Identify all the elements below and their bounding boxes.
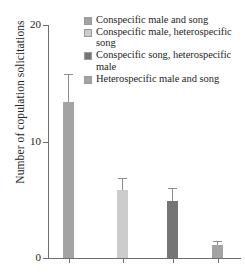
legend-label: Conspecific song, heterospecific male <box>96 49 244 72</box>
legend-label: Heterospecific male and song <box>96 73 219 85</box>
y-tick-mark <box>43 25 48 26</box>
error-bar-cap <box>213 241 222 242</box>
bar <box>63 102 74 258</box>
y-axis-line <box>48 25 49 258</box>
x-tick-mark <box>218 259 219 263</box>
legend-label: Conspecific male, heterospecific song <box>96 26 244 49</box>
x-tick-mark <box>173 259 174 263</box>
error-bar-cap <box>168 188 177 189</box>
bar <box>212 245 223 258</box>
legend-swatch-icon <box>84 52 92 60</box>
bar <box>117 190 128 258</box>
legend-swatch-icon <box>84 76 92 84</box>
y-tick-mark <box>43 142 48 143</box>
legend-swatch-icon <box>84 29 92 37</box>
error-bar-cap <box>118 178 127 179</box>
error-bar-cap <box>64 74 73 75</box>
legend-entry: Conspecific male, heterospecific song <box>84 26 244 49</box>
error-bar-stem <box>122 178 123 191</box>
legend-entry: Heterospecific male and song <box>84 73 244 85</box>
y-tick-mark <box>43 258 48 259</box>
x-axis-line <box>48 258 241 259</box>
y-tick-label: 20 <box>1 19 41 30</box>
legend-swatch-icon <box>84 17 92 25</box>
x-tick-mark <box>69 259 70 263</box>
error-bar-stem <box>68 74 69 102</box>
chart-legend: Conspecific male and songConspecific mal… <box>84 14 244 84</box>
x-tick-mark <box>123 259 124 263</box>
legend-entry: Conspecific song, heterospecific male <box>84 49 244 72</box>
legend-label: Conspecific male and song <box>96 14 208 26</box>
legend-entry: Conspecific male and song <box>84 14 244 26</box>
bar-chart-figure: Number of copulation solicitations 20100… <box>0 0 245 275</box>
error-bar-stem <box>172 188 173 201</box>
y-tick-label: 0 <box>1 252 41 263</box>
y-tick-label: 10 <box>1 136 41 147</box>
bar <box>167 201 178 258</box>
